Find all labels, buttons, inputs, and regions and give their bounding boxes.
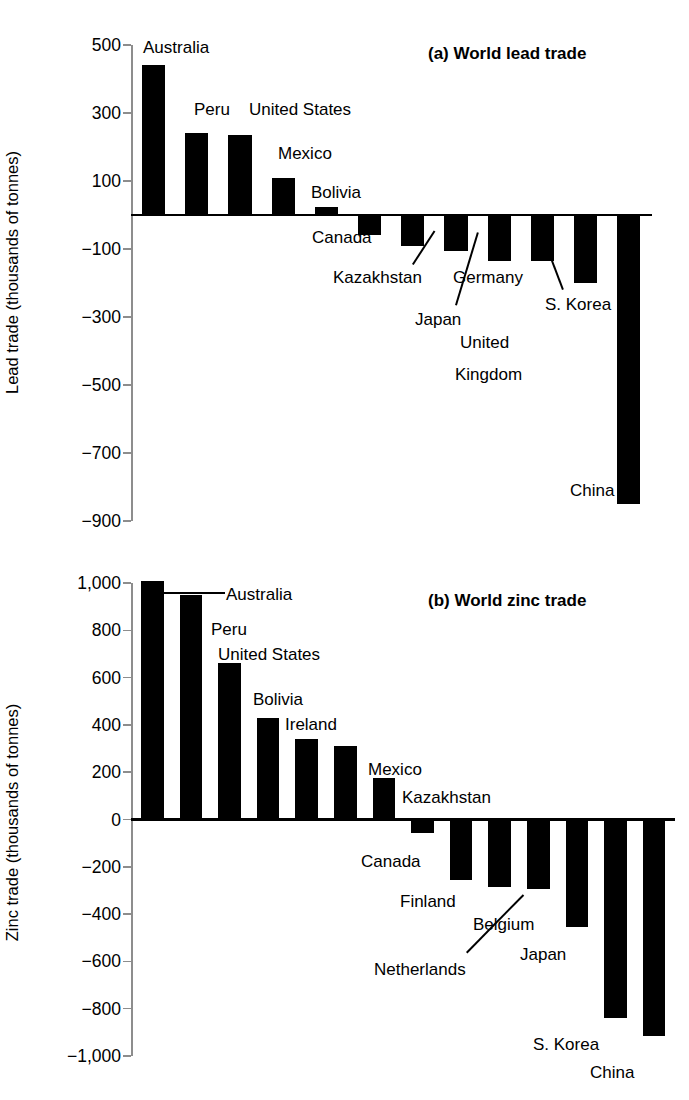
bar-label-japan: Japan [415, 310, 461, 330]
y-tick [123, 1008, 131, 1010]
y-tick-label: −500 [82, 375, 121, 396]
bar-australia [141, 581, 164, 820]
y-tick [123, 180, 131, 182]
y-tick-label: −100 [82, 239, 121, 260]
y-tick-label: 300 [92, 103, 121, 124]
panel-a-y-axis [131, 45, 133, 521]
y-tick-label: −200 [82, 856, 121, 877]
y-tick [123, 452, 131, 454]
y-tick [123, 630, 131, 632]
y-tick [123, 248, 131, 250]
y-tick-label: −800 [82, 998, 121, 1019]
bar-mexico [334, 746, 357, 819]
bar-united-states [228, 135, 251, 215]
bar-label-finland: Finland [400, 892, 456, 912]
y-tick-label: −900 [82, 511, 121, 532]
y-tick-label: −400 [82, 904, 121, 925]
bar-label-united-states: United States [218, 645, 320, 665]
bar-label-peru: Peru [194, 100, 230, 120]
bar-s-korea [604, 820, 627, 1019]
y-tick [123, 384, 131, 386]
bar-label-ireland: Ireland [285, 715, 337, 735]
bar-belgium [527, 820, 550, 890]
leader-line-australia [163, 592, 225, 594]
y-tick-label: 0 [111, 809, 121, 830]
bar-label-australia: Australia [226, 585, 292, 605]
bar-label-bolivia: Bolivia [253, 690, 303, 710]
bar-label-kazakhstan: Kazakhstan [402, 788, 491, 808]
bar-label-mexico: Mexico [278, 144, 332, 164]
bar-label-united-states: United States [249, 100, 351, 120]
panel-b-plot-area: 1,0008006004002000−200−400−600−800−1,000 [131, 583, 672, 1056]
panel-lead-trade: Lead trade (thousands of tonnes) (a) Wor… [0, 0, 689, 545]
bar-label-peru: Peru [211, 620, 247, 640]
bar-label-s-korea: S. Korea [533, 1035, 599, 1055]
bar-china [617, 215, 640, 504]
y-tick [123, 1055, 131, 1057]
y-tick-label: 100 [92, 171, 121, 192]
figure-root: Lead trade (thousands of tonnes) (a) Wor… [0, 0, 689, 1100]
y-tick-label: −1,000 [67, 1046, 121, 1067]
bar-kazakhstan [373, 778, 396, 819]
y-tick [123, 112, 131, 114]
y-tick [123, 913, 131, 915]
bar-label-mexico: Mexico [368, 760, 422, 780]
y-tick [123, 582, 131, 584]
y-tick [123, 866, 131, 868]
bar-label-canada: Canada [361, 852, 421, 872]
bar-label-kazakhstan: Kazakhstan [333, 268, 422, 288]
bar-australia [142, 65, 165, 215]
bar-mexico [272, 178, 295, 215]
bar-united-states [218, 663, 241, 819]
bar-label-canada: Canada [312, 228, 372, 248]
bar-peru [185, 133, 208, 215]
bar-netherlands [488, 820, 511, 887]
bar-bolivia [315, 207, 338, 216]
y-tick-label: 200 [92, 762, 121, 783]
y-tick [123, 520, 131, 522]
y-tick [123, 819, 131, 821]
y-tick [123, 961, 131, 963]
panel-a-y-axis-label: Lead trade (thousands of tonnes) [0, 0, 28, 545]
bar-kazakhstan [401, 215, 424, 246]
panel-b-y-axis-label: Zinc trade (thousands of tonnes) [0, 545, 28, 1100]
bar-label-kingdom: Kingdom [455, 365, 522, 385]
bar-label-australia: Australia [143, 38, 209, 58]
bar-japan [566, 820, 589, 928]
y-tick [123, 316, 131, 318]
bar-label-united: United [460, 333, 509, 353]
bar-canada [411, 820, 434, 833]
y-tick [123, 771, 131, 773]
bar-bolivia [257, 718, 280, 820]
bar-japan [488, 215, 511, 261]
y-tick-label: 800 [92, 620, 121, 641]
bar-label-china: China [590, 1063, 634, 1083]
y-tick-label: −700 [82, 443, 121, 464]
bar-ireland [295, 739, 318, 819]
bar-china [643, 820, 666, 1036]
y-tick [123, 44, 131, 46]
y-tick-label: 600 [92, 667, 121, 688]
bar-label-bolivia: Bolivia [311, 183, 361, 203]
y-tick-label: 400 [92, 714, 121, 735]
bar-label-china: China [570, 481, 614, 501]
bar-germany [444, 215, 467, 251]
bar-finland [450, 820, 473, 880]
bar-label-japan: Japan [520, 945, 566, 965]
panel-zinc-trade: Zinc trade (thousands of tonnes) (b) Wor… [0, 545, 689, 1100]
y-tick [123, 677, 131, 679]
bar-label-netherlands: Netherlands [374, 960, 466, 980]
bar-label-s-korea: S. Korea [545, 295, 611, 315]
y-tick-label: −300 [82, 307, 121, 328]
bar-label-belgium: Belgium [473, 915, 534, 935]
bar-s-korea [574, 215, 597, 283]
y-tick-label: −600 [82, 951, 121, 972]
panel-b-zero-line [131, 818, 675, 821]
y-tick-label: 500 [92, 35, 121, 56]
bar-peru [180, 595, 203, 820]
y-tick-label: 1,000 [77, 573, 121, 594]
y-tick [123, 724, 131, 726]
